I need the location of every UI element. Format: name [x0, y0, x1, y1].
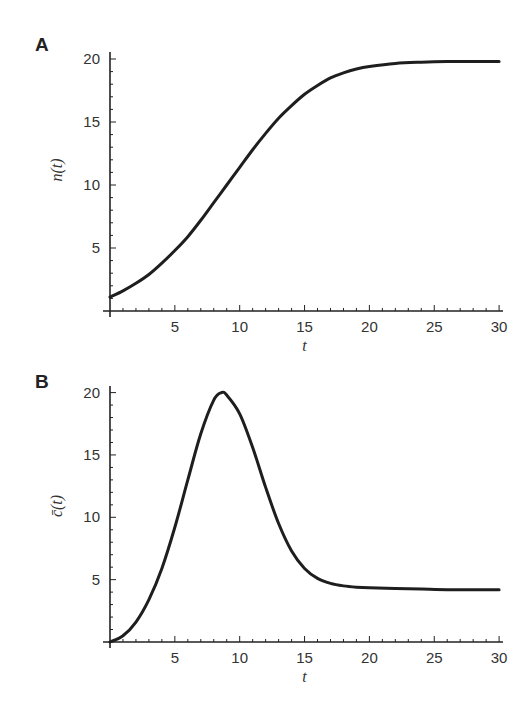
x-axis-label: t — [302, 668, 307, 685]
x-tick-label: 5 — [171, 649, 179, 666]
x-tick-label: 25 — [426, 318, 443, 335]
y-tick-label: 20 — [83, 384, 100, 401]
x-tick-label: 30 — [491, 649, 508, 666]
data-curve — [110, 61, 499, 297]
y-tick-label: 10 — [83, 508, 100, 525]
x-tick-label: 30 — [491, 318, 508, 335]
x-tick-label: 10 — [231, 649, 248, 666]
data-curve — [110, 392, 499, 642]
x-tick-label: 25 — [426, 649, 443, 666]
y-tick-label: 15 — [83, 446, 100, 463]
chart-panel-a: 510152025305101520tn(t) — [48, 50, 507, 354]
x-tick-label: 15 — [296, 649, 313, 666]
x-tick-label: 15 — [296, 318, 313, 335]
x-tick-label: 5 — [171, 318, 179, 335]
x-tick-label: 20 — [361, 318, 378, 335]
y-tick-label: 20 — [83, 50, 100, 67]
y-tick-label: 10 — [83, 176, 100, 193]
y-tick-label: 5 — [92, 571, 100, 588]
y-tick-label: 5 — [92, 239, 100, 256]
y-axis-label: c̄(t) — [48, 495, 66, 517]
y-axis-label: n(t) — [48, 158, 66, 181]
x-tick-label: 20 — [361, 649, 378, 666]
x-axis-label: t — [302, 337, 307, 354]
y-tick-label: 15 — [83, 113, 100, 130]
figure-canvas: 510152025305101520tn(t)51015202530510152… — [0, 0, 531, 701]
chart-panel-b: 510152025305101520tc̄(t) — [48, 384, 507, 685]
x-tick-label: 10 — [231, 318, 248, 335]
